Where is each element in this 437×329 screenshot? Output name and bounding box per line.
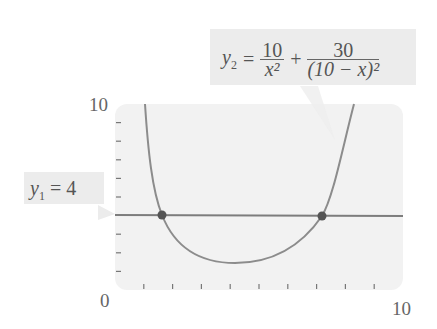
y1-sub: 1	[39, 189, 45, 203]
y2-equals: =	[243, 48, 254, 71]
y1-var: y	[30, 177, 39, 199]
y1-equation-label: y1 = 4	[24, 172, 104, 204]
y2-sub: 2	[231, 58, 237, 72]
y-max-label: 10	[89, 94, 108, 116]
fraction-1: 10 x²	[260, 41, 284, 78]
x-max-label: 10	[392, 298, 411, 320]
plot-area	[115, 104, 403, 290]
intersection-point-2	[318, 212, 327, 221]
intersection-point-1	[158, 211, 167, 220]
y2-equation-label: y2 = 10 x² + 30 (10 − x)²	[210, 29, 416, 85]
fraction-2: 30 (10 − x)²	[307, 41, 379, 78]
plus-sign: +	[290, 48, 301, 71]
y1-value: = 4	[50, 177, 76, 199]
fraction-1-den: x²	[260, 60, 284, 78]
fraction-2-den: (10 − x)²	[307, 60, 379, 78]
y1-label-pointer	[98, 205, 115, 220]
x-min-label: 0	[100, 290, 110, 312]
y2-var: y	[222, 46, 231, 68]
